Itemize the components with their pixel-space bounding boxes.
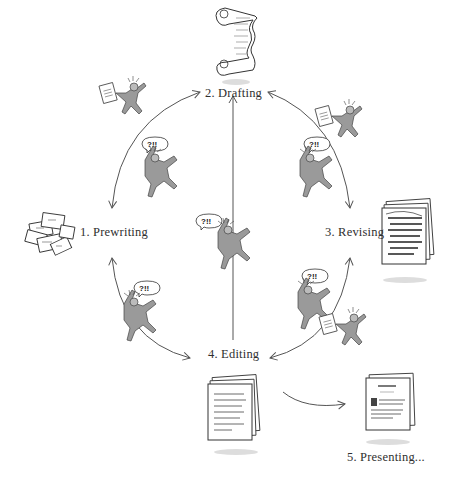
diagram-canvas: ?!!: [0, 0, 462, 484]
figure-carrying-paper-bottom-right: [319, 307, 366, 345]
scroll-icon: [216, 8, 257, 85]
figure-tumbling-top-right: [300, 146, 332, 197]
stage-label-editing: 4. Editing: [208, 347, 259, 362]
writing-process-diagram: ?!!: [0, 0, 462, 484]
stage-label-revising: 3. Revising: [325, 225, 384, 240]
stage-label-prewriting: 1. Prewriting: [80, 225, 148, 240]
handwritten-pages-icon: [208, 375, 260, 455]
figure-tumbling-center: [218, 218, 250, 269]
scattered-notes-icon: [25, 213, 75, 256]
marked-up-pages-icon: [382, 199, 434, 283]
stage-label-presenting: 5. Presenting...: [347, 450, 425, 465]
speech-bubble-icon: [196, 214, 222, 230]
arrow-editing-presenting: [283, 392, 345, 406]
stage-label-drafting: 2. Drafting: [205, 86, 262, 101]
figure-tumbling-bottom-left: [124, 290, 156, 341]
figure-tumbling-top-left: [145, 146, 177, 197]
final-document-icon: [366, 373, 415, 445]
figure-carrying-paper-top-left: [99, 76, 146, 114]
